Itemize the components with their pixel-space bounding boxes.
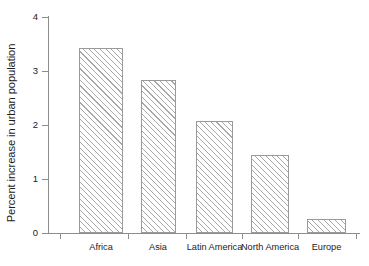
x-tick-label-north-america: North America: [232, 242, 308, 252]
x-tick-mark-5: [356, 234, 357, 239]
y-tick-mark-4: [42, 17, 48, 18]
bar-asia: [141, 80, 176, 233]
y-tick-label-2: 2: [24, 120, 38, 130]
y-tick-mark-2: [42, 125, 48, 126]
x-tick-mark-1: [128, 234, 129, 239]
y-tick-mark-3: [42, 71, 48, 72]
x-tick-mark-4: [298, 234, 299, 239]
y-axis-title: Percent increase in urban population: [0, 0, 22, 266]
y-axis-line: [48, 16, 49, 234]
x-tick-label-africa: Africa: [71, 242, 131, 252]
bar-latin-america: [196, 121, 233, 233]
y-tick-label-1: 1: [24, 174, 38, 184]
y-tick-label-3: 3: [24, 66, 38, 76]
x-tick-mark-0: [60, 234, 61, 239]
y-tick-mark-0: [42, 233, 48, 234]
x-tick-label-asia: Asia: [133, 242, 183, 252]
x-tick-mark-2: [186, 234, 187, 239]
x-axis-line: [42, 233, 360, 234]
bar-europe: [307, 219, 346, 233]
y-tick-label-0: 0: [24, 228, 38, 238]
x-tick-label-europe: Europe: [300, 242, 353, 252]
bar-north-america: [251, 155, 289, 233]
y-tick-mark-1: [42, 179, 48, 180]
x-tick-mark-3: [242, 234, 243, 239]
bar-chart: Percent increase in urban population 0 1…: [0, 0, 369, 266]
y-tick-label-4: 4: [24, 12, 38, 22]
bar-africa: [79, 48, 123, 233]
